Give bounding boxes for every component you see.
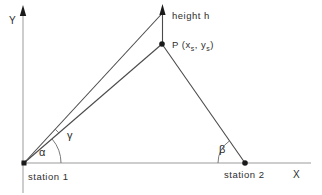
- point-p-marker: [159, 41, 165, 47]
- height-label: height h: [172, 10, 210, 21]
- point-p-label-prefix: P (x: [172, 39, 191, 50]
- point-p-label-mid: , y: [195, 39, 207, 50]
- gamma-label: γ: [67, 129, 73, 141]
- alpha-label: α: [39, 146, 46, 158]
- station1-label: station 1: [28, 171, 68, 182]
- diagram-canvas: Y X height h P (xs, ys) α γ β station 1 …: [0, 0, 322, 195]
- alpha-angle-arc: [52, 139, 61, 163]
- x-axis-label: X: [293, 169, 300, 180]
- y-axis-arrowhead-icon: [20, 5, 26, 16]
- sight-line-p-to-station2: [162, 44, 245, 163]
- sight-line-station1-to-height: [24, 13, 163, 163]
- station1-marker: [22, 161, 27, 166]
- beta-label: β: [219, 143, 225, 155]
- gamma-angle-arc: [55, 129, 59, 133]
- station2-label: station 2: [224, 169, 264, 180]
- point-p-label-suffix: ): [210, 39, 214, 50]
- triangulation-height-diagram: Y X height h P (xs, ys) α γ β station 1 …: [0, 0, 322, 195]
- point-p-label: P (xs, ys): [172, 39, 214, 52]
- station2-marker: [242, 160, 248, 166]
- height-arrowhead-icon: [159, 4, 165, 15]
- y-axis-label: Y: [9, 15, 16, 26]
